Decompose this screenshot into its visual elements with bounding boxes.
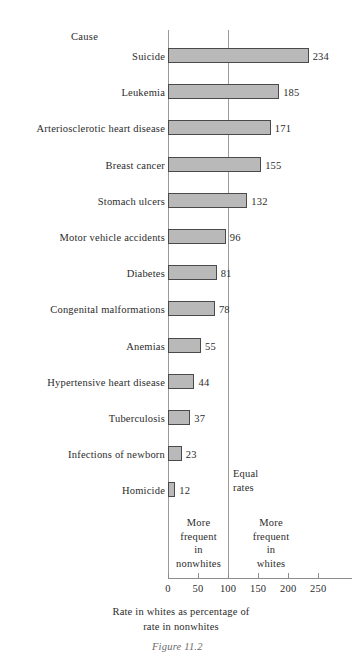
x-axis-tick xyxy=(198,573,199,578)
bar-category-label: Hypertensive heart disease xyxy=(47,376,165,387)
bar-category-label: Anemias xyxy=(126,340,165,351)
bar-row: Stomach ulcers132 xyxy=(0,193,362,209)
x-axis-tick xyxy=(318,573,319,578)
bar-category-label: Breast cancer xyxy=(106,159,165,170)
bar-row: Homicide12 xyxy=(0,482,362,498)
bar xyxy=(168,48,309,63)
bar-row: Suicide234 xyxy=(0,48,362,64)
figure-caption: Figure 11.2 xyxy=(152,641,203,652)
x-axis-tick xyxy=(258,573,259,578)
bar-category-label: Diabetes xyxy=(127,268,165,279)
bar-value-label: 44 xyxy=(198,376,209,387)
bar-row: Congenital malformations78 xyxy=(0,301,362,317)
bar-category-label: Arteriosclerotic heart disease xyxy=(37,123,165,134)
bar xyxy=(168,338,201,353)
bar xyxy=(168,446,182,461)
bar-value-label: 155 xyxy=(265,159,281,170)
bar-row: Leukemia185 xyxy=(0,84,362,100)
bar-category-label: Congenital malformations xyxy=(50,304,165,315)
bar-row: Infections of newborn23 xyxy=(0,446,362,462)
bar xyxy=(168,410,190,425)
bar-category-label: Suicide xyxy=(132,51,165,62)
bar-category-label: Tuberculosis xyxy=(109,413,165,424)
bar-row: Tuberculosis37 xyxy=(0,410,362,426)
bar xyxy=(168,120,271,135)
bar-value-label: 132 xyxy=(251,195,267,206)
bar-value-label: 185 xyxy=(283,87,299,98)
bar xyxy=(168,157,261,172)
bar-row: Motor vehicle accidents96 xyxy=(0,229,362,245)
bar-row: Hypertensive heart disease44 xyxy=(0,374,362,390)
annotation-more-frequent-whites: More frequent in whites xyxy=(240,516,302,570)
annotation-more-frequent-nonwhites: More frequent in nonwhites xyxy=(170,516,227,570)
bar xyxy=(168,84,279,99)
bar-value-label: 171 xyxy=(275,123,291,134)
x-axis-line xyxy=(168,578,352,579)
x-axis-title-line2: rate in nonwhites xyxy=(0,619,362,634)
bar-value-label: 12 xyxy=(179,485,190,496)
category-axis-header: Cause xyxy=(71,31,98,42)
bar xyxy=(168,301,215,316)
bar-value-label: 234 xyxy=(313,51,329,62)
bar-value-label: 37 xyxy=(194,413,205,424)
bar-value-label: 55 xyxy=(205,340,216,351)
x-axis-tick-label: 250 xyxy=(298,583,338,594)
annotation-equal-rates: Equal rates xyxy=(233,467,259,494)
bar xyxy=(168,374,194,389)
bar xyxy=(168,193,247,208)
x-axis-title-line1: Rate in whites as percentage of xyxy=(0,604,362,619)
bar xyxy=(168,229,226,244)
bar-value-label: 96 xyxy=(230,232,241,243)
bar-category-label: Infections of newborn xyxy=(68,449,165,460)
x-axis-title: Rate in whites as percentage of rate in … xyxy=(0,604,362,634)
bar-value-label: 78 xyxy=(219,304,230,315)
bar-row: Anemias55 xyxy=(0,338,362,354)
bar-row: Diabetes81 xyxy=(0,265,362,281)
x-axis-tick xyxy=(228,573,229,578)
x-axis-tick xyxy=(168,573,169,578)
bar xyxy=(168,265,217,280)
bar-category-label: Motor vehicle accidents xyxy=(60,232,165,243)
bar-category-label: Stomach ulcers xyxy=(98,195,165,206)
bar-category-label: Homicide xyxy=(122,485,165,496)
bar xyxy=(168,482,175,497)
x-axis-tick xyxy=(288,573,289,578)
bar-category-label: Leukemia xyxy=(121,87,165,98)
bar-value-label: 81 xyxy=(221,268,232,279)
bar-row: Breast cancer155 xyxy=(0,157,362,173)
bar-row: Arteriosclerotic heart disease171 xyxy=(0,120,362,136)
bar-value-label: 23 xyxy=(186,449,197,460)
